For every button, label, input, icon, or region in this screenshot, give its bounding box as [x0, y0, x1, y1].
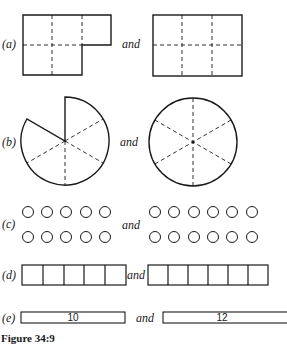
and-c: and: [122, 218, 141, 232]
l-shape: [23, 15, 111, 75]
figure-34-9: (a) and (b): [0, 0, 287, 348]
label-b: (b): [2, 135, 16, 149]
part-d: (d) and: [2, 265, 268, 285]
part-e: (e) 10 and 12: [2, 311, 287, 325]
circles-twelve: [150, 207, 258, 243]
label-d: (d): [2, 268, 16, 282]
label-a: (a): [2, 37, 16, 51]
circle-five-sixths: [21, 97, 109, 185]
label-e: (e): [2, 311, 15, 325]
label-c: (c): [2, 217, 15, 231]
and-a: and: [122, 37, 141, 51]
bar-ten-value: 10: [67, 312, 79, 323]
rectangle-six: [153, 15, 242, 76]
cells-five: [22, 265, 126, 285]
and-d: and: [127, 268, 146, 282]
bar-twelve-value: 12: [216, 312, 228, 323]
part-c: (c) and: [2, 207, 258, 243]
figure-caption: Figure 34:9: [1, 332, 55, 344]
cells-six: [148, 265, 268, 285]
part-a: (a) and: [2, 15, 242, 76]
circle-six-sectors: [149, 98, 237, 186]
part-b: (b) and: [2, 97, 237, 186]
and-b: and: [120, 135, 139, 149]
circles-ten: [23, 207, 111, 243]
and-e: and: [136, 311, 155, 325]
